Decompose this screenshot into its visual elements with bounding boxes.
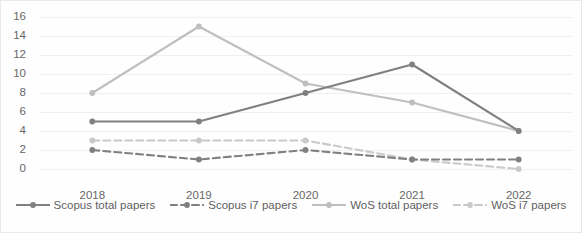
data-point-marker bbox=[516, 166, 522, 172]
legend-item[interactable]: Scopus total papers bbox=[16, 199, 156, 211]
data-point-marker bbox=[409, 157, 415, 163]
series-line bbox=[92, 141, 518, 170]
data-point-marker bbox=[303, 81, 309, 87]
data-point-marker bbox=[196, 157, 202, 163]
data-point-marker bbox=[303, 138, 309, 144]
legend-swatch-icon bbox=[312, 200, 346, 210]
y-axis-tick-label: 10 bbox=[0, 68, 26, 80]
legend-swatch-icon bbox=[170, 200, 204, 210]
chart-container: 1614121086420 20182019202020212022 Scopu… bbox=[0, 0, 582, 233]
y-axis-tick-label: 8 bbox=[0, 87, 26, 99]
y-axis-tick-label: 2 bbox=[0, 144, 26, 156]
data-point-marker bbox=[196, 138, 202, 144]
data-point-marker bbox=[89, 90, 95, 96]
legend-label: WoS i7 papers bbox=[491, 199, 566, 211]
data-point-marker bbox=[516, 157, 522, 163]
gridline bbox=[39, 169, 572, 170]
data-point-marker bbox=[409, 62, 415, 68]
chart-legend: Scopus total papersScopus i7 papersWoS t… bbox=[1, 199, 581, 211]
y-axis-tick-label: 4 bbox=[0, 125, 26, 137]
series-line bbox=[92, 27, 518, 132]
legend-item[interactable]: WoS i7 papers bbox=[453, 199, 566, 211]
legend-item[interactable]: Scopus i7 papers bbox=[170, 199, 297, 211]
data-point-marker bbox=[89, 138, 95, 144]
y-axis-tick-label: 6 bbox=[0, 106, 26, 118]
data-point-marker bbox=[516, 128, 522, 134]
legend-label: WoS total papers bbox=[350, 199, 438, 211]
data-point-marker bbox=[89, 119, 95, 125]
data-point-marker bbox=[303, 90, 309, 96]
data-point-marker bbox=[89, 147, 95, 153]
y-axis-tick-label: 12 bbox=[0, 49, 26, 61]
y-axis-tick-label: 0 bbox=[0, 163, 26, 175]
data-point-marker bbox=[409, 100, 415, 106]
legend-label: Scopus total papers bbox=[54, 199, 156, 211]
data-point-marker bbox=[196, 119, 202, 125]
legend-label: Scopus i7 papers bbox=[208, 199, 297, 211]
plot-area: 1614121086420 20182019202020212022 bbox=[39, 17, 572, 169]
legend-swatch-icon bbox=[453, 200, 487, 210]
legend-item[interactable]: WoS total papers bbox=[312, 199, 438, 211]
y-axis-tick-label: 16 bbox=[0, 11, 26, 23]
y-axis-tick-label: 14 bbox=[0, 30, 26, 42]
series-layer bbox=[39, 17, 572, 169]
series-line bbox=[92, 65, 518, 132]
legend-swatch-icon bbox=[16, 200, 50, 210]
data-point-marker bbox=[196, 24, 202, 30]
data-point-marker bbox=[303, 147, 309, 153]
